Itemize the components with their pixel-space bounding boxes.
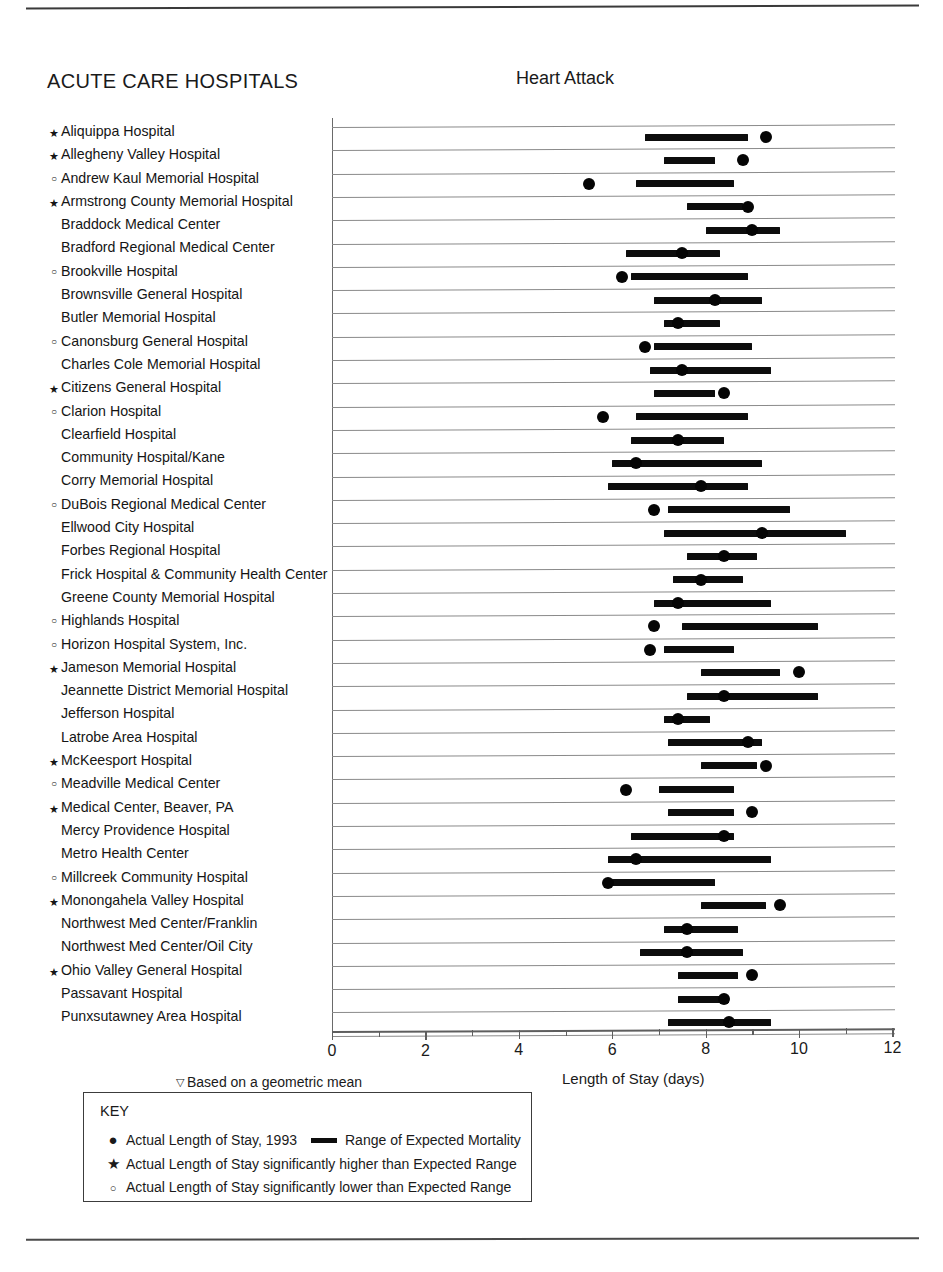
actual-length-of-stay-dot — [648, 620, 660, 632]
x-axis-tick — [706, 1029, 707, 1038]
expected-range-bar — [673, 576, 743, 583]
hospital-name-label: Jeannette District Memorial Hospital — [61, 679, 288, 702]
actual-length-of-stay-dot — [639, 341, 651, 353]
expected-range-bar — [687, 203, 743, 210]
x-axis-tick — [379, 1031, 380, 1037]
hospital-name-row: Braddock Medical Center — [47, 213, 332, 236]
grid-line — [332, 194, 895, 198]
hospital-name-label: Mercy Providence Hospital — [61, 819, 230, 842]
actual-length-of-stay-dot — [793, 666, 805, 678]
x-axis-tick-label: 4 — [514, 1041, 523, 1059]
x-axis-tick — [332, 1031, 333, 1040]
hospital-name-row: Brownsville General Hospital — [47, 283, 332, 306]
grid-line — [332, 544, 895, 548]
actual-length-of-stay-dot — [620, 784, 632, 796]
actual-length-of-stay-dot — [737, 154, 749, 166]
grid-line — [332, 450, 895, 454]
hospital-name-label: Horizon Hospital System, Inc. — [61, 633, 247, 656]
actual-length-of-stay-dot — [597, 411, 609, 423]
filled-dot-icon: ● — [100, 1131, 126, 1148]
grid-line — [332, 963, 895, 967]
actual-length-of-stay-dot — [718, 993, 730, 1005]
x-axis-tick — [425, 1031, 426, 1040]
grid-line — [332, 520, 895, 524]
expected-range-bar — [636, 180, 734, 187]
grid-line — [332, 311, 895, 315]
star-icon: ★ — [47, 751, 61, 774]
expected-range-bar — [654, 390, 715, 397]
key-row-actual: ●Actual Length of Stay, 1993Range of Exp… — [100, 1131, 521, 1148]
grid-line — [332, 427, 895, 431]
hospital-name-label: Armstrong County Memorial Hospital — [61, 190, 293, 213]
hospital-name-label: Highlands Hospital — [61, 609, 179, 632]
hospital-name-row: Metro Health Center — [47, 842, 332, 865]
chart-title: Heart Attack — [516, 68, 614, 89]
x-axis-tick — [799, 1029, 800, 1038]
grid-line — [332, 753, 895, 757]
x-axis-tick — [659, 1029, 660, 1035]
expected-range-bar — [682, 623, 817, 630]
hospital-name-row: Passavant Hospital — [47, 982, 332, 1005]
expected-range-bar — [668, 1019, 771, 1026]
actual-length-of-stay-dot — [583, 178, 595, 190]
actual-length-of-stay-dot — [630, 853, 642, 865]
actual-length-of-stay-dot — [742, 736, 754, 748]
hospital-name-label: Bradford Regional Medical Center — [61, 236, 275, 259]
x-axis-tick-label: 10 — [790, 1040, 808, 1058]
hospital-name-row: ○Clarion Hospital — [47, 400, 332, 423]
grid-line — [332, 777, 895, 781]
footnote-label: Based on a geometric mean — [187, 1074, 362, 1090]
hospital-name-label: Citizens General Hospital — [61, 376, 221, 399]
hospital-name-label: Monongahela Valley Hospital — [61, 889, 244, 912]
actual-length-of-stay-dot — [746, 224, 758, 236]
hospital-name-label: Allegheny Valley Hospital — [61, 143, 220, 166]
x-axis-tick-label: 0 — [328, 1042, 337, 1060]
grid-line — [332, 171, 895, 175]
open-circle-icon: ○ — [47, 260, 61, 283]
open-circle-icon: ○ — [47, 400, 61, 423]
grid-line — [332, 241, 895, 245]
hospital-name-row: ★Citizens General Hospital — [47, 376, 332, 399]
hospital-name-label: Metro Health Center — [61, 842, 189, 865]
grid-line — [332, 404, 895, 408]
grid-line — [332, 1033, 895, 1037]
grid-line — [332, 497, 895, 501]
grid-line — [332, 357, 895, 361]
hospital-name-row: ○Andrew Kaul Memorial Hospital — [47, 167, 332, 190]
hospital-name-row: Community Hospital/Kane — [47, 446, 332, 469]
hospital-name-label: Forbes Regional Hospital — [61, 539, 220, 562]
grid-line — [332, 334, 895, 338]
actual-length-of-stay-dot — [630, 457, 642, 469]
open-circle-icon: ○ — [47, 330, 61, 353]
actual-length-of-stay-dot — [718, 550, 730, 562]
grid-line — [332, 124, 895, 128]
hospital-name-row: Jefferson Hospital — [47, 702, 332, 725]
expected-range-bar — [654, 297, 761, 304]
hospital-name-row: Charles Cole Memorial Hospital — [47, 353, 332, 376]
hospital-name-list: ★Aliquippa Hospital★Allegheny Valley Hos… — [47, 120, 332, 1029]
grid-line — [332, 847, 895, 851]
expected-range-bar — [678, 972, 739, 979]
x-axis-tick — [472, 1030, 473, 1036]
hospital-name-label: Canonsburg General Hospital — [61, 330, 248, 353]
grid-line — [332, 986, 895, 990]
hospital-name-row: ★Medical Center, Beaver, PA — [47, 796, 332, 819]
key-label-lower: Actual Length of Stay significantly lowe… — [126, 1179, 511, 1195]
hospital-name-row: ○Brookville Hospital — [47, 260, 332, 283]
expected-range-bar — [668, 506, 789, 513]
expected-range-bar — [668, 809, 733, 816]
x-axis-tick-label: 12 — [883, 1039, 901, 1057]
x-axis-tick-label: 2 — [421, 1042, 430, 1060]
expected-range-bar — [636, 413, 748, 420]
x-axis-tick — [612, 1030, 613, 1039]
hospital-name-row: Punxsutawney Area Hospital — [47, 1005, 332, 1028]
hospital-name-label: McKeesport Hospital — [61, 749, 192, 772]
key-row-lower: ○Actual Length of Stay significantly low… — [100, 1179, 511, 1195]
expected-range-bar — [664, 926, 739, 933]
hospital-name-label: Community Hospital/Kane — [61, 446, 225, 469]
x-axis-tick — [752, 1029, 753, 1035]
grid-line — [332, 287, 895, 291]
expected-range-bar — [659, 786, 734, 793]
x-axis-caption: Length of Stay (days) — [562, 1070, 705, 1087]
hospital-name-row: ○DuBois Regional Medical Center — [47, 493, 332, 516]
